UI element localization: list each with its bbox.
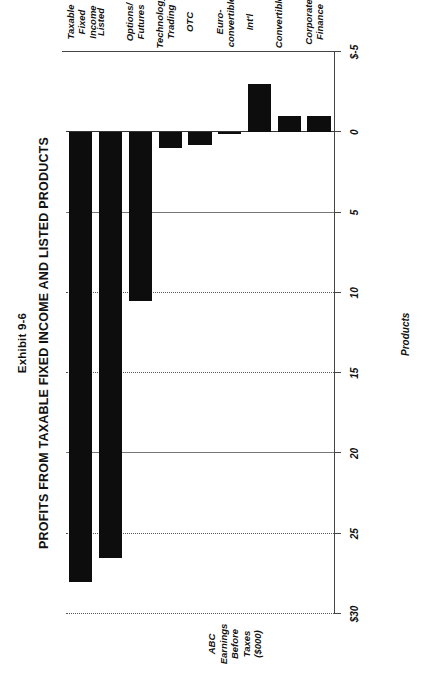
tick-label: $30	[349, 606, 360, 623]
category-label: Listed	[95, 0, 106, 61]
category-label: Convertible	[273, 0, 284, 61]
category-label: Taxable Fixed Income	[65, 0, 98, 61]
bar	[307, 116, 330, 132]
bar	[278, 116, 301, 132]
page-title: PROFITS FROM TAXABLE FIXED INCOME AND LI…	[37, 0, 51, 686]
category-axis-title: Products	[400, 313, 411, 356]
category-label: OTC	[184, 0, 195, 61]
axis-tick	[334, 292, 341, 293]
category-label: Int'l	[244, 0, 255, 61]
bar	[129, 132, 152, 301]
plot-inner: $302520151050$-5Taxable Fixed IncomeList…	[66, 52, 334, 614]
bar	[218, 132, 241, 134]
bar	[248, 84, 271, 132]
axis-tick	[334, 212, 341, 213]
tick-label: 20	[349, 448, 360, 459]
plot-area: $302520151050$-5Taxable Fixed IncomeList…	[66, 52, 334, 614]
value-axis-title: ABC Earnings Before Taxes ($000)	[206, 618, 264, 670]
category-label: Technology Trading	[154, 0, 176, 61]
axis-tick	[334, 452, 341, 453]
bar	[188, 132, 211, 145]
tick-label: 0	[349, 130, 360, 136]
bar	[99, 132, 122, 558]
category-label: Corporate Finance	[303, 0, 325, 61]
tick-label: $-5	[349, 45, 360, 59]
gridline	[66, 613, 334, 614]
axis-tick	[334, 131, 341, 132]
chart-canvas: Exhibit 9-6 PROFITS FROM TAXABLE FIXED I…	[0, 0, 426, 686]
tick-label: 25	[349, 528, 360, 539]
axis-tick	[334, 372, 341, 373]
title-block: Exhibit 9-6 PROFITS FROM TAXABLE FIXED I…	[16, 0, 51, 686]
bar	[159, 132, 182, 148]
bar	[69, 132, 92, 582]
axis-tick	[334, 533, 341, 534]
value-axis-line	[334, 52, 335, 614]
axis-tick	[334, 613, 341, 614]
category-label: Euro- convertible	[214, 0, 236, 61]
tick-label: 10	[349, 287, 360, 298]
tick-label: 15	[349, 368, 360, 379]
tick-label: 5	[349, 210, 360, 216]
axis-tick	[334, 51, 341, 52]
exhibit-number: Exhibit 9-6	[16, 0, 28, 686]
category-label: Options/ Futures	[124, 0, 146, 61]
